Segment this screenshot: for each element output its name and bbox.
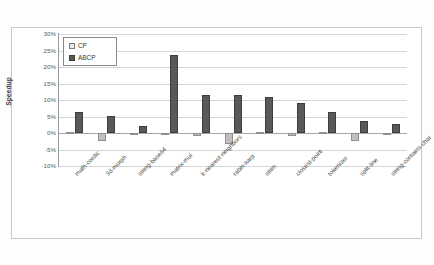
x-tick-label: matrix-mul (168, 152, 193, 177)
chart-page: 30%25%20%15%10%5%0%-5%-10% Speedup CP AB… (0, 0, 434, 265)
x-tick-label: strim (263, 163, 277, 177)
x-tick-label: string-base64 (136, 145, 167, 176)
x-axis-labels: math-cordic3d-morphstring-base64matrix-m… (0, 0, 434, 265)
x-tick-label: string-contains-char (389, 134, 432, 177)
x-tick-label: closest-point (294, 147, 324, 177)
x-tick-label: math-cordic (73, 149, 101, 177)
x-tick-label: 3d-morph (104, 153, 128, 177)
x-tick-label: tokenizer (326, 154, 349, 177)
x-tick-label: split-line (358, 156, 379, 177)
x-tick-label: rabin-karp (231, 152, 256, 177)
